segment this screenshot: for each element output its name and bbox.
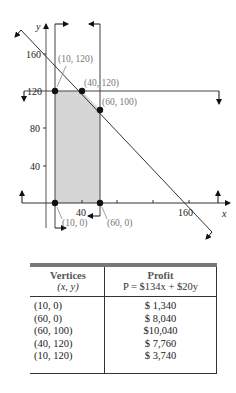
vertex-point-10-120 bbox=[52, 88, 58, 94]
cell-profit: $ 1,340 bbox=[105, 297, 217, 313]
profit-table-container: Vertices (x, y) Profit P = $134x + $20y … bbox=[30, 263, 217, 374]
vertex-label-10-0: (10, 0) bbox=[62, 218, 87, 229]
cell-vertex: (10, 120) bbox=[30, 350, 105, 373]
vertex-point-60-0 bbox=[97, 200, 103, 206]
header-vertices-title: Vertices bbox=[34, 270, 102, 281]
y-tick-label-120: 120 bbox=[27, 86, 42, 97]
table-row: (10, 120) $ 3,740 bbox=[30, 350, 217, 373]
x-tick-label-40: 40 bbox=[76, 207, 86, 218]
vertex-label-10-120: (10, 120) bbox=[58, 54, 93, 65]
y-axis-label: y bbox=[35, 21, 41, 32]
header-profit-title: Profit bbox=[107, 270, 214, 281]
direction-arrow-diag-top bbox=[15, 30, 21, 37]
vertex-label-40-120: (40, 120) bbox=[84, 78, 119, 89]
direction-arrow-diag-bottom bbox=[206, 232, 212, 239]
vertex-point-40-120 bbox=[79, 88, 85, 94]
cell-profit: $ 7,760 bbox=[105, 338, 217, 351]
cell-profit: $ 8,040 bbox=[105, 313, 217, 326]
x-tick-label-160: 160 bbox=[178, 207, 193, 218]
vertex-point-10-0 bbox=[52, 200, 58, 206]
y-tick-label-160: 160 bbox=[26, 49, 41, 60]
profit-table: Vertices (x, y) Profit P = $134x + $20y … bbox=[30, 263, 217, 374]
header-profit-formula: P = $134x + $20y bbox=[107, 281, 214, 292]
cell-vertex: (40, 120) bbox=[30, 338, 105, 351]
feasible-region bbox=[55, 91, 100, 203]
vertex-point-60-100 bbox=[97, 107, 103, 113]
cell-profit: $10,040 bbox=[105, 325, 217, 338]
header-vertices: Vertices (x, y) bbox=[30, 265, 105, 297]
table-row: (10, 0) $ 1,340 bbox=[30, 297, 217, 313]
y-tick-label-40: 40 bbox=[30, 161, 40, 172]
x-axis-label: x bbox=[221, 208, 227, 219]
feasible-region-graph: y x 40 160 40 80 120 160 (10, 120) (40, … bbox=[0, 0, 236, 245]
vertex-label-60-100: (60, 100) bbox=[102, 97, 137, 108]
cell-vertex: (60, 0) bbox=[30, 313, 105, 326]
header-vertices-sub: (x, y) bbox=[34, 281, 102, 292]
cell-vertex: (10, 0) bbox=[30, 297, 105, 313]
table-row: (40, 120) $ 7,760 bbox=[30, 338, 217, 351]
header-profit: Profit P = $134x + $20y bbox=[105, 265, 217, 297]
y-tick-label-80: 80 bbox=[30, 123, 40, 134]
vertex-label-60-0: (60, 0) bbox=[107, 218, 132, 229]
table-header-row: Vertices (x, y) Profit P = $134x + $20y bbox=[30, 265, 217, 297]
table-row: (60, 0) $ 8,040 bbox=[30, 313, 217, 326]
table-row: (60, 100) $10,040 bbox=[30, 325, 217, 338]
cell-vertex: (60, 100) bbox=[30, 325, 105, 338]
cell-profit: $ 3,740 bbox=[105, 350, 217, 373]
